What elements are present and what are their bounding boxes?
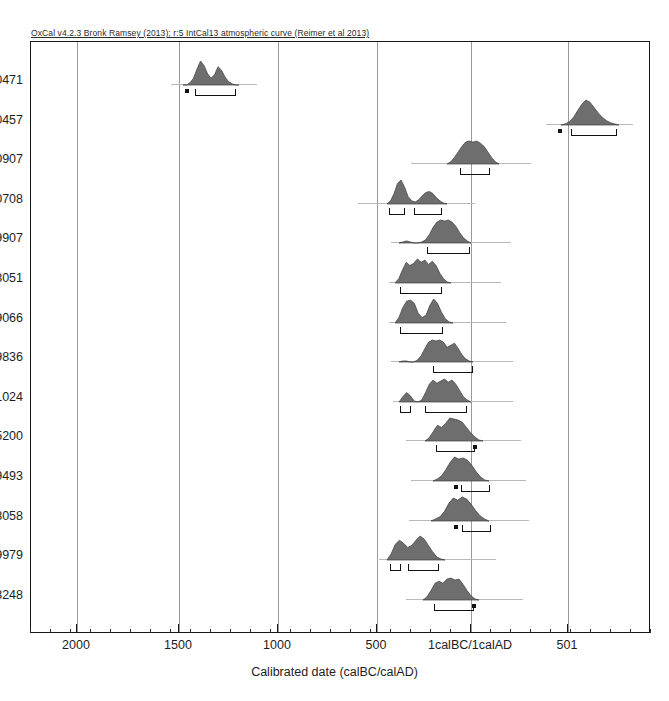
- row-label: R_Date 31024: [0, 390, 23, 404]
- axis-minor-tick: [410, 629, 411, 633]
- axis-major-tick: [76, 624, 77, 633]
- confidence-range-bar: [414, 208, 442, 215]
- axis-tick-label: 2000: [62, 638, 90, 652]
- range-marker-dot: [185, 89, 189, 93]
- axis-tick-label: 1000: [263, 638, 291, 652]
- axis-minor-tick: [510, 629, 511, 633]
- x-axis: 2000150010005001calBC/1calAD501: [30, 633, 650, 634]
- row-label: R_Date 25200: [0, 429, 23, 443]
- confidence-range-bar: [434, 604, 474, 611]
- axis-tick-label: 500: [366, 638, 387, 652]
- range-bar-group: [31, 485, 649, 494]
- axis-major-tick: [567, 624, 568, 633]
- range-bar-group: [31, 564, 649, 573]
- axis-tick-label: 1calBC/1calAD: [428, 638, 512, 652]
- distribution-row: R_Date 119066: [31, 298, 649, 338]
- axis-minor-tick: [130, 629, 131, 633]
- axis-minor-tick: [230, 629, 231, 633]
- distribution-row: R_Date 9979: [31, 535, 649, 575]
- axis-minor-tick: [610, 629, 611, 633]
- row-label: R_Date 120471: [0, 73, 23, 87]
- confidence-range-bar: [571, 129, 617, 136]
- axis-tick-label: 501: [557, 638, 578, 652]
- x-axis-title: Calibrated date (calBC/calAD): [0, 665, 669, 679]
- row-label: R_Date 9979: [0, 548, 23, 562]
- axis-minor-tick: [210, 629, 211, 633]
- row-label: R_Date 3248: [0, 588, 23, 602]
- distribution-row: R_Date 120457: [31, 100, 649, 140]
- distribution-row: R_Date 120708: [31, 179, 649, 219]
- axis-minor-tick: [270, 629, 271, 633]
- axis-minor-tick: [630, 629, 631, 633]
- axis-minor-tick: [450, 629, 451, 633]
- axis-major-tick: [470, 624, 471, 633]
- distribution-row: R_Date 119907: [31, 218, 649, 258]
- distribution-row: R_Date 88051: [31, 258, 649, 298]
- range-bar-group: [31, 445, 649, 454]
- axis-major-tick: [277, 624, 278, 633]
- range-bar-group: [31, 129, 649, 138]
- distribution-row: R_Date 120907: [31, 139, 649, 179]
- distribution-row: R_Date 31024: [31, 377, 649, 417]
- confidence-range-bar: [389, 208, 405, 215]
- confidence-range-bar: [460, 168, 490, 175]
- range-marker-dot: [558, 129, 562, 133]
- range-bar-group: [31, 406, 649, 415]
- axis-minor-tick: [390, 629, 391, 633]
- range-bar-group: [31, 287, 649, 296]
- row-label: R_Date 9493: [0, 469, 23, 483]
- axis-minor-tick: [350, 629, 351, 633]
- row-label: R_Date 120708: [0, 192, 23, 206]
- confidence-range-bar: [461, 485, 490, 492]
- axis-minor-tick: [50, 629, 51, 633]
- row-label: R_Date 88051: [0, 271, 23, 285]
- axis-minor-tick: [590, 629, 591, 633]
- range-bar-group: [31, 366, 649, 375]
- axis-minor-tick: [370, 629, 371, 633]
- axis-minor-tick: [530, 629, 531, 633]
- confidence-range-bar: [400, 287, 442, 294]
- range-marker-dot: [473, 445, 477, 449]
- axis-minor-tick: [290, 629, 291, 633]
- row-label: R_Date 120907: [0, 152, 23, 166]
- distribution-row: R_Date 119836: [31, 337, 649, 377]
- distribution-row: R_Date 9493: [31, 456, 649, 496]
- axis-minor-tick: [250, 629, 251, 633]
- axis-minor-tick: [30, 629, 31, 633]
- axis-minor-tick: [570, 629, 571, 633]
- distribution-row: R_Date 25200: [31, 416, 649, 456]
- axis-major-tick: [376, 624, 377, 633]
- axis-minor-tick: [170, 629, 171, 633]
- calibration-plot-area: R_Date 120471R_Date 120457R_Date 120907R…: [30, 41, 650, 633]
- axis-tick-label: 1500: [164, 638, 192, 652]
- range-bar-group: [31, 89, 649, 98]
- confidence-range-bar: [425, 406, 467, 413]
- axis-minor-tick: [330, 629, 331, 633]
- confidence-range-bar: [390, 564, 401, 571]
- axis-minor-tick: [70, 629, 71, 633]
- axis-minor-tick: [310, 629, 311, 633]
- axis-minor-tick: [490, 629, 491, 633]
- row-label: R_Date 118058: [0, 509, 23, 523]
- axis-minor-tick: [150, 629, 151, 633]
- axis-minor-tick: [190, 629, 191, 633]
- axis-minor-tick: [650, 629, 651, 633]
- axis-minor-tick: [110, 629, 111, 633]
- distribution-row: R_Date 118058: [31, 496, 649, 536]
- axis-minor-tick: [430, 629, 431, 633]
- confidence-range-bar: [400, 406, 411, 413]
- axis-major-tick: [178, 624, 179, 633]
- range-bar-group: [31, 525, 649, 534]
- range-bar-group: [31, 247, 649, 256]
- confidence-range-bar: [462, 525, 491, 532]
- confidence-range-bar: [408, 564, 439, 571]
- plot-caption: OxCal v4.2.3 Bronk Ramsey (2013); r:5 In…: [31, 28, 369, 38]
- axis-minor-tick: [90, 629, 91, 633]
- row-label: R_Date 119907: [0, 231, 23, 245]
- axis-minor-tick: [550, 629, 551, 633]
- row-label: R_Date 119836: [0, 350, 23, 364]
- range-marker-dot: [454, 525, 458, 529]
- confidence-range-bar: [436, 445, 475, 452]
- distribution-row: R_Date 3248: [31, 575, 649, 615]
- confidence-range-bar: [427, 247, 470, 254]
